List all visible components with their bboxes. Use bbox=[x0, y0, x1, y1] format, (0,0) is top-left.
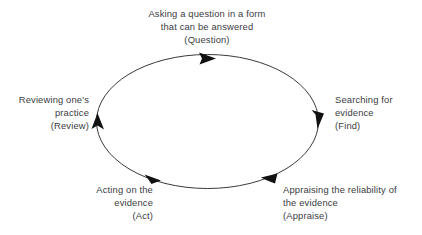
stage-label-review: Reviewing one's practice (Review) bbox=[6, 93, 89, 132]
cycle-ellipse-path bbox=[97, 55, 319, 189]
arrow-left-icon bbox=[92, 113, 105, 130]
diagram-canvas: Asking a question in a form that can be … bbox=[0, 0, 422, 235]
arrow-right-icon bbox=[312, 110, 325, 129]
arrow-bottom-right-icon bbox=[261, 174, 278, 184]
stage-label-appraise: Appraising the reliability of the eviden… bbox=[283, 183, 422, 222]
stage-label-find: Searching for evidence (Find) bbox=[335, 93, 421, 132]
stage-label-question: Asking a question in a form that can be … bbox=[134, 7, 280, 46]
stage-label-act: Acting on the evidence (Act) bbox=[62, 183, 153, 222]
